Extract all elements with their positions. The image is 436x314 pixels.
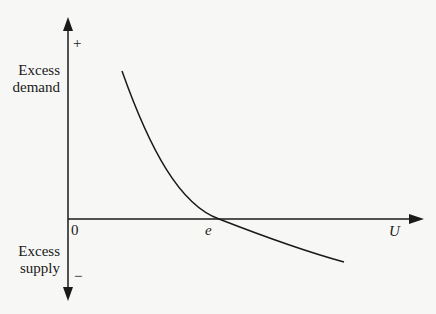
excess-supply-label: Excess supply (10, 243, 60, 277)
x-axis-right-arrow (409, 214, 424, 224)
excess-demand-curve (122, 71, 344, 262)
positive-sign: + (73, 35, 81, 52)
excess-demand-line1: Excess (10, 62, 60, 79)
equilibrium-label: e (205, 222, 212, 239)
excess-demand-label: Excess demand (10, 62, 60, 96)
y-axis-down-arrow (63, 287, 73, 301)
origin-label: 0 (71, 222, 79, 239)
excess-demand-line2: demand (10, 79, 60, 96)
excess-supply-line1: Excess (10, 243, 60, 260)
x-axis-label: U (389, 223, 400, 240)
diagram-canvas (0, 0, 436, 314)
excess-supply-line2: supply (10, 260, 60, 277)
y-axis-up-arrow (63, 17, 73, 31)
negative-sign: − (74, 268, 82, 285)
